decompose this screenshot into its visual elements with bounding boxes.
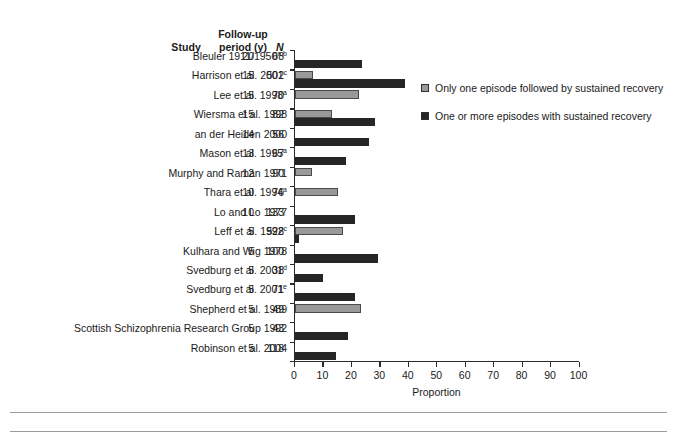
legend-label: Only one episode followed by sustained r…: [435, 82, 663, 94]
x-axis-tick-label: 60: [450, 369, 480, 381]
row-n-value: 90: [258, 167, 284, 179]
bar-group: [295, 227, 580, 244]
row-n-value: 100: [258, 245, 284, 257]
y-axis-tick: [290, 283, 295, 284]
y-axis-tick: [290, 206, 295, 207]
x-axis-tick: [493, 362, 494, 367]
row-followup-years: 12: [232, 167, 254, 179]
bar-one-or-more-episodes: [295, 352, 335, 360]
bar-group: [295, 188, 580, 205]
bar-group: [295, 285, 580, 302]
x-axis-tick-label: 40: [393, 369, 423, 381]
x-axis-tick: [436, 362, 437, 367]
bar-one-or-more-episodes: [295, 215, 355, 223]
bar-group: [295, 52, 580, 69]
row-n-value: 67: [258, 147, 284, 159]
legend-swatch-icon: [421, 112, 429, 120]
row-followup-years: 5: [232, 322, 254, 334]
x-axis-tick: [294, 362, 295, 367]
x-axis-tick-label: 80: [507, 369, 537, 381]
x-axis-tick: [579, 362, 580, 367]
y-axis-tick: [290, 186, 295, 187]
bar-one-episode: [295, 90, 358, 98]
x-axis-tick: [465, 362, 466, 367]
bar-group: [295, 343, 580, 360]
row-n-value: 43: [258, 322, 284, 334]
x-axis-tick-label: 50: [421, 369, 451, 381]
row-followup-years: 10: [232, 186, 254, 198]
figure-panel: Study Follow-up period (y) N Bleuler 191…: [0, 0, 677, 432]
bar-one-or-more-episodes: [295, 60, 361, 68]
row-n-value: 49: [258, 303, 284, 315]
row-n-value: 38: [258, 264, 284, 276]
bar-one-episode: [295, 304, 360, 312]
y-axis-tick: [290, 108, 295, 109]
row-n-value: 118: [258, 342, 284, 354]
legend-item-one_episode: Only one episode followed by sustained r…: [421, 82, 663, 94]
y-axis-tick: [290, 167, 295, 168]
row-followup-years: 5: [232, 225, 254, 237]
x-axis-tick: [379, 362, 380, 367]
row-followup-years: 5: [232, 245, 254, 257]
bar-one-or-more-episodes: [295, 332, 348, 340]
y-axis-tick: [290, 89, 295, 90]
bar-one-or-more-episodes: [295, 274, 322, 282]
row-n-value: 71: [258, 283, 284, 295]
x-axis-tick: [322, 362, 323, 367]
legend-swatch-icon: [421, 84, 429, 92]
bar-one-episode: [295, 188, 338, 196]
y-axis-tick: [290, 225, 295, 226]
row-n-value: 70: [258, 89, 284, 101]
x-axis-tick-label: 90: [535, 369, 565, 381]
x-axis-tick-label: 30: [364, 369, 394, 381]
x-axis-tick-label: 100: [564, 369, 594, 381]
row-followup-years: 14: [232, 128, 254, 140]
bar-one-or-more-episodes: [295, 235, 298, 243]
y-axis-tick: [290, 322, 295, 323]
y-axis-tick: [290, 50, 295, 51]
bar-group: [295, 324, 580, 341]
x-axis-tick-label: 0: [279, 369, 309, 381]
bar-group: [295, 265, 580, 282]
bar-group: [295, 168, 580, 185]
bar-one-episode: [295, 227, 343, 235]
row-followup-years: 5: [232, 303, 254, 315]
bar-one-episode: [295, 71, 313, 79]
row-n-value: 502: [258, 69, 284, 81]
plot-area: 0102030405060708090100: [294, 50, 582, 362]
column-header-followup-line1: Follow-up: [218, 28, 268, 40]
x-axis-tick: [351, 362, 352, 367]
legend-label: One or more episodes with sustained reco…: [435, 110, 652, 122]
row-n-value: 76: [258, 186, 284, 198]
bar-group: [295, 246, 580, 263]
x-axis-title: Proportion: [294, 386, 579, 398]
row-study-label: Scottish Schizophrenia Research Group 19…: [74, 322, 287, 334]
row-n-value: 528: [258, 225, 284, 237]
y-axis-tick: [290, 303, 295, 304]
bar-group: [295, 207, 580, 224]
row-study-footnote: c: [284, 225, 288, 232]
x-axis-tick: [522, 362, 523, 367]
y-axis-tick: [290, 342, 295, 343]
footer-rule-top: [10, 412, 667, 413]
bar-one-or-more-episodes: [295, 138, 368, 146]
y-axis-tick: [290, 147, 295, 148]
legend-item-one_or_more: One or more episodes with sustained reco…: [421, 110, 652, 122]
row-n-value: 133: [258, 206, 284, 218]
x-axis-tick-label: 20: [336, 369, 366, 381]
row-followup-years: 10: [232, 206, 254, 218]
x-axis-tick: [408, 362, 409, 367]
bar-one-episode: [295, 110, 332, 118]
x-axis-tick-label: 70: [478, 369, 508, 381]
y-axis-tick: [290, 245, 295, 246]
y-axis-tick: [290, 264, 295, 265]
row-followup-years: 15: [232, 69, 254, 81]
y-axis-tick: [290, 69, 295, 70]
row-followup-years: 20: [232, 50, 254, 62]
row-followup-years: 5: [232, 264, 254, 276]
bar-group: [295, 304, 580, 321]
bar-one-or-more-episodes: [295, 79, 405, 87]
row-n-value: 68: [258, 50, 284, 62]
row-study-footnote: c: [284, 69, 288, 76]
row-n-value: 56: [258, 128, 284, 140]
